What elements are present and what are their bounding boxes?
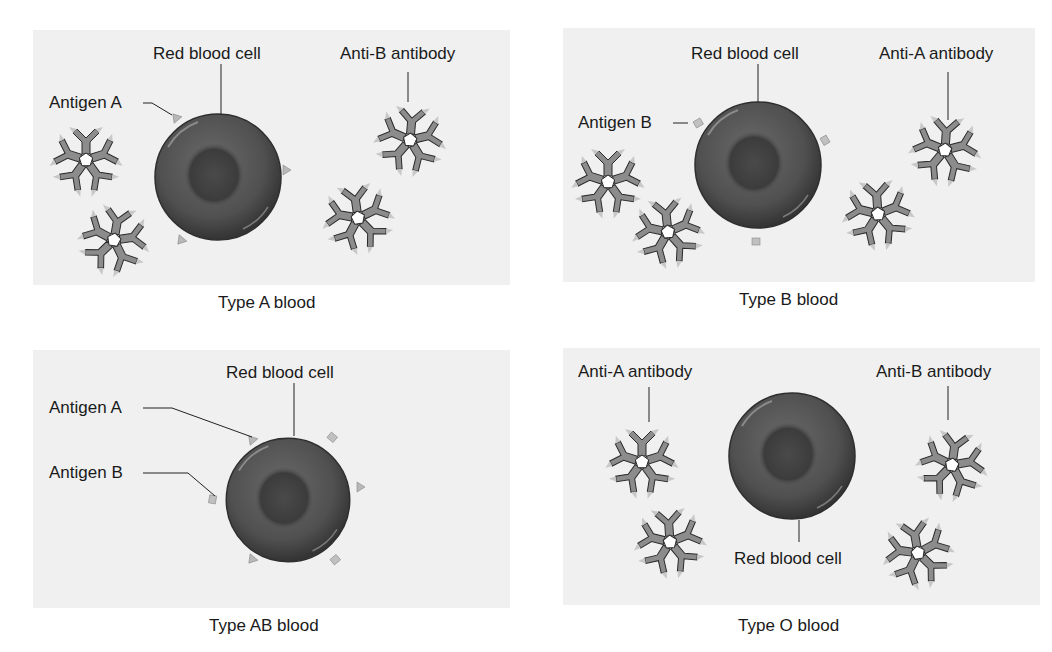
red-blood-cell	[695, 102, 821, 228]
type-ab-illustration	[143, 383, 365, 566]
antigen-b-leader-line	[143, 473, 215, 496]
caption-type-o: Type O blood	[738, 616, 839, 636]
label-antigen-b: Antigen B	[578, 113, 652, 133]
diagram-graphics	[0, 0, 1052, 652]
anti-a-antibody	[631, 507, 709, 582]
label-anti-a-antibody: Anti-A antibody	[578, 362, 692, 382]
red-blood-cell	[226, 438, 349, 561]
caption-type-ab: Type AB blood	[209, 616, 319, 636]
anti-b-antibody	[49, 127, 122, 197]
label-red-blood-cell: Red blood cell	[734, 549, 842, 569]
anti-b-antibody	[317, 180, 399, 259]
anti-a-antibody	[605, 429, 678, 499]
label-anti-b-antibody: Anti-B antibody	[876, 362, 991, 382]
caption-type-b: Type B blood	[739, 290, 838, 310]
antigen-a-leader-line	[143, 408, 252, 437]
label-red-blood-cell: Red blood cell	[153, 44, 261, 64]
label-antigen-a: Antigen A	[49, 398, 122, 418]
label-red-blood-cell: Red blood cell	[691, 44, 799, 64]
anti-b-antibody	[911, 427, 993, 506]
anti-a-antibody	[628, 195, 708, 272]
anti-a-antibody	[571, 149, 644, 219]
anti-b-antibody	[876, 514, 960, 595]
label-red-blood-cell: Red blood cell	[226, 363, 334, 383]
anti-a-antibody	[839, 179, 917, 254]
label-anti-b-antibody: Anti-B antibody	[340, 44, 455, 64]
antigen-a-leader-line	[143, 103, 172, 115]
red-blood-cell	[155, 114, 281, 240]
label-antigen-a: Antigen A	[49, 93, 122, 113]
label-anti-a-antibody: Anti-A antibody	[879, 44, 993, 64]
anti-b-antibody	[72, 201, 156, 282]
caption-type-a: Type A blood	[218, 293, 315, 313]
type-b-illustration	[571, 64, 983, 272]
anti-a-antibody	[906, 115, 984, 190]
anti-b-antibody	[370, 104, 449, 180]
red-blood-cell	[729, 393, 855, 519]
label-antigen-b: Antigen B	[49, 463, 123, 483]
